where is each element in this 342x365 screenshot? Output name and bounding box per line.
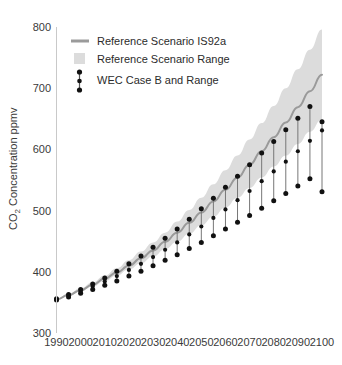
wec-mid-dot — [296, 149, 300, 153]
wec-mid-dot — [247, 189, 251, 193]
wec-mid-dot — [260, 179, 264, 183]
wec-upper-dot — [247, 162, 252, 167]
legend-label-wec-case-b: WEC Case B and Range — [97, 74, 219, 86]
wec-lower-dot — [90, 287, 95, 292]
wec-mid-dot — [308, 139, 312, 143]
y-tick-label: 500 — [33, 205, 51, 217]
y-tick-label: 600 — [33, 143, 51, 155]
wec-lower-dot — [78, 291, 83, 296]
wec-upper-dot — [199, 206, 204, 211]
x-tick-label: 2040 — [165, 336, 189, 348]
wec-upper-dot — [114, 269, 119, 274]
x-tick-label: 2080 — [261, 336, 285, 348]
wec-lower-dot — [307, 176, 312, 181]
wec-upper-dot — [283, 127, 288, 132]
wec-upper-dot — [138, 253, 143, 258]
co2-concentration-chart: 300400500600700800 199020002010202020302… — [0, 0, 342, 365]
wec-upper-dot — [163, 236, 168, 241]
wec-mid-dot — [139, 262, 143, 266]
wec-upper-dot — [235, 174, 240, 179]
wec-lower-dot — [259, 206, 264, 211]
wec-mid-dot — [211, 216, 215, 220]
x-tick-label: 2060 — [213, 336, 237, 348]
wec-lower-dot — [223, 226, 228, 231]
wec-lower-dot — [138, 269, 143, 274]
wec-upper-dot — [307, 104, 312, 109]
wec-lower-dot — [175, 252, 180, 257]
wec-lower-dot — [283, 191, 288, 196]
legend-band-swatch-icon — [74, 53, 85, 64]
legend-errorbar-top-dot-icon — [77, 69, 82, 74]
wec-lower-dot — [271, 198, 276, 203]
x-tick-label: 2050 — [189, 336, 213, 348]
wec-upper-dot — [259, 151, 264, 156]
x-tick-label: 2020 — [117, 336, 141, 348]
x-tick-label: 2030 — [141, 336, 165, 348]
wec-lower-dot — [211, 233, 216, 238]
legend-label-reference-scenario: Reference Scenario IS92a — [97, 35, 227, 47]
wec-lower-dot — [247, 213, 252, 218]
wec-lower-dot — [187, 246, 192, 251]
wec-lower-dot — [126, 274, 131, 279]
wec-mid-dot — [175, 240, 179, 244]
y-tick-label: 400 — [33, 266, 51, 278]
wec-upper-dot — [175, 226, 180, 231]
y-tick-label: 700 — [33, 82, 51, 94]
wec-mid-dot — [115, 274, 119, 278]
wec-lower-dot — [151, 263, 156, 268]
x-axis-ticks: 1990200020102020203020402050206020702080… — [44, 336, 334, 348]
wec-upper-dot — [211, 196, 216, 201]
wec-mid-dot — [235, 198, 239, 202]
wec-lower-dot — [66, 294, 71, 299]
x-tick-label: 2000 — [68, 336, 92, 348]
y-tick-label: 800 — [33, 21, 51, 33]
x-tick-label: 2090 — [286, 336, 310, 348]
wec-mid-dot — [284, 160, 288, 164]
wec-lower-dot — [114, 278, 119, 283]
wec-upper-dot — [271, 139, 276, 144]
wec-lower-dot — [199, 240, 204, 245]
wec-mid-dot — [187, 232, 191, 236]
wec-upper-dot — [151, 245, 156, 250]
wec-upper-dot — [126, 261, 131, 266]
wec-lower-dot — [163, 258, 168, 263]
wec-mid-dot — [223, 207, 227, 211]
wec-mid-dot — [151, 255, 155, 259]
legend-errorbar-bottom-dot-icon — [77, 87, 82, 92]
x-tick-label: 1990 — [44, 336, 68, 348]
wec-mid-dot — [163, 248, 167, 252]
x-tick-label: 2010 — [93, 336, 117, 348]
wec-lower-dot — [320, 189, 325, 194]
wec-lower-dot — [295, 184, 300, 189]
wec-lower-dot — [235, 220, 240, 225]
x-tick-label: 2070 — [237, 336, 261, 348]
legend-errorbar-mid-dot-icon — [77, 79, 82, 84]
wec-upper-dot — [295, 116, 300, 121]
x-tick-label: 2100 — [310, 336, 334, 348]
legend-label-reference-range: Reference Scenario Range — [97, 53, 230, 65]
wec-mid-dot — [199, 224, 203, 228]
wec-mid-dot — [272, 169, 276, 173]
wec-lower-dot — [102, 283, 107, 288]
y-axis-title-rest: Concentration ppmv — [7, 107, 19, 209]
wec-upper-dot — [187, 217, 192, 222]
wec-mid-dot — [127, 268, 131, 272]
wec-upper-dot — [223, 185, 228, 190]
chart-figure: 300400500600700800 199020002010202020302… — [0, 0, 342, 365]
wec-upper-dot — [320, 119, 325, 124]
wec-mid-dot — [320, 128, 324, 132]
y-axis-title-prefix: CO — [7, 213, 19, 230]
